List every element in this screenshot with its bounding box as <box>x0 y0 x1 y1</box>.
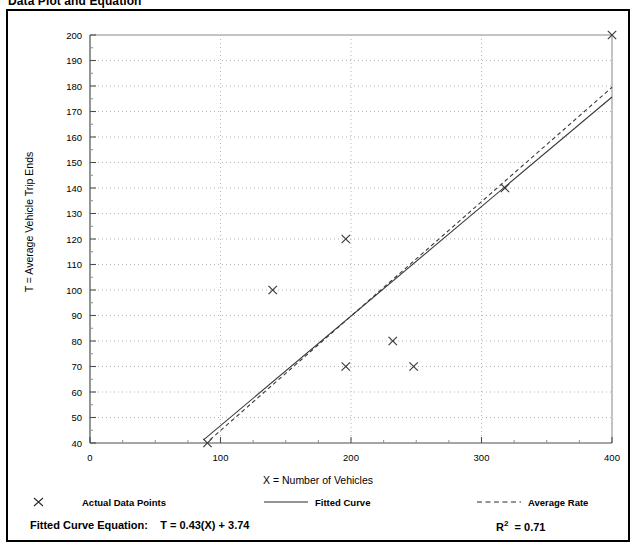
series-line-solid <box>204 97 612 440</box>
y-tick-label: 150 <box>66 157 82 168</box>
equation-footer: Fitted Curve Equation: T = 0.43(X) + 3.7… <box>8 519 628 541</box>
equation-label: Fitted Curve Equation: <box>30 519 148 531</box>
y-tick-label: 40 <box>71 438 82 449</box>
y-tick-label: 200 <box>66 30 82 41</box>
r-squared-value: R2 = 0.71 <box>496 519 545 533</box>
y-tick-label: 170 <box>66 106 82 117</box>
solid-line-icon <box>263 495 309 509</box>
r-squared-symbol: R <box>496 521 504 533</box>
r-squared-exponent: 2 <box>504 519 508 528</box>
data-point-marker <box>389 337 397 345</box>
y-tick-label: 80 <box>71 336 82 347</box>
fitted-curve-equation: Fitted Curve Equation: T = 0.43(X) + 3.7… <box>30 519 249 531</box>
data-point-marker <box>269 286 277 294</box>
x-tick-label: 100 <box>213 452 229 463</box>
dashed-line-icon <box>476 495 522 509</box>
legend-label-average-rate: Average Rate <box>528 497 588 508</box>
chart-canvas: 4050607080901001101201301401501601701801… <box>8 11 628 489</box>
legend-item-actual-data-points: Actual Data Points <box>30 491 166 513</box>
chart-page: Data Plot and Equation 40506070809010011… <box>0 0 638 549</box>
y-tick-label: 160 <box>66 132 82 143</box>
y-tick-label: 140 <box>66 183 82 194</box>
r-squared-number: = 0.71 <box>515 521 546 533</box>
chart-panel: 4050607080901001101201301401501601701801… <box>6 9 630 542</box>
legend-label-fitted-curve: Fitted Curve <box>315 497 370 508</box>
page-title: Data Plot and Equation <box>8 0 142 8</box>
y-axis-title: T = Average Vehicle Trip Ends <box>23 127 35 317</box>
equation-value: T = 0.43(X) + 3.74 <box>160 519 249 531</box>
y-tick-label: 70 <box>71 361 82 372</box>
chart-legend: Actual Data Points Fitted Curve Average … <box>8 491 628 515</box>
x-tick-label: 300 <box>474 452 490 463</box>
x-tick-label: 400 <box>604 452 620 463</box>
y-tick-label: 50 <box>71 412 82 423</box>
y-tick-label: 60 <box>71 387 82 398</box>
legend-item-fitted-curve: Fitted Curve <box>263 491 370 513</box>
x-marker-icon <box>30 495 76 509</box>
plot-area: 4050607080901001101201301401501601701801… <box>8 11 628 489</box>
y-tick-label: 180 <box>66 81 82 92</box>
y-tick-label: 90 <box>71 310 82 321</box>
x-axis-title: X = Number of Vehicles <box>8 474 628 486</box>
legend-item-average-rate: Average Rate <box>476 491 588 513</box>
legend-label-actual-data-points: Actual Data Points <box>82 497 166 508</box>
y-tick-label: 130 <box>66 208 82 219</box>
x-tick-label: 200 <box>343 452 359 463</box>
series-line-dashed <box>210 87 612 439</box>
x-tick-label: 0 <box>87 452 92 463</box>
y-tick-label: 100 <box>66 285 82 296</box>
y-tick-label: 190 <box>66 55 82 66</box>
y-tick-label: 110 <box>67 259 82 270</box>
y-tick-label: 120 <box>66 234 82 245</box>
